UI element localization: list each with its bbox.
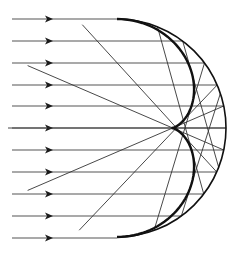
reflected-ray <box>28 106 224 190</box>
reflected-rays <box>8 25 226 231</box>
reflected-ray <box>28 66 224 150</box>
reflected-ray <box>183 41 219 167</box>
reflected-ray <box>79 85 217 230</box>
reflected-ray <box>154 63 205 231</box>
incident-rays <box>12 16 226 242</box>
caustic-diagram <box>0 0 237 258</box>
